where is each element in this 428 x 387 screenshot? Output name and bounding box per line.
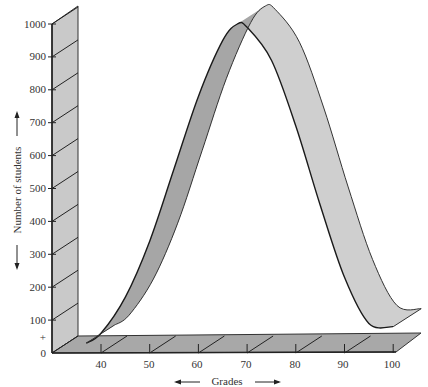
y-tick-300: 300 (30, 248, 47, 260)
x-tick-90: 90 (338, 358, 350, 370)
y-axis-title: Number of students (11, 147, 23, 234)
x-axis-title-group: Grades (174, 375, 281, 387)
x-tick-40: 40 (96, 358, 108, 370)
y-tick-500: 500 (30, 182, 47, 194)
y-tick-900: 900 (30, 50, 47, 62)
arrow-up-icon (15, 111, 20, 118)
y-tick-1000: 1000 (24, 18, 47, 30)
distribution-ribbon (86, 4, 421, 343)
y-tick-0: 0 (41, 347, 47, 359)
arrow-down-icon (15, 263, 20, 270)
y-tick-700: 700 (30, 116, 47, 128)
y-tick-labels: 0 + 100 200 300 400 500 600 700 800 900 … (24, 18, 47, 359)
x-axis-title: Grades (211, 375, 242, 387)
x-tick-100: 100 (384, 358, 401, 370)
y-tick-100: 100 (30, 314, 47, 326)
y-tick-800: 800 (30, 83, 47, 95)
grade-distribution-chart: 0 + 100 200 300 400 500 600 700 800 900 … (0, 0, 428, 387)
y-tick-600: 600 (30, 149, 47, 161)
x-tick-labels: 40 50 60 70 80 90 100 (96, 358, 401, 370)
y-tick-400: 400 (30, 215, 47, 227)
x-tick-70: 70 (241, 358, 253, 370)
x-tick-60: 60 (192, 358, 204, 370)
x-axis-floor (52, 333, 421, 353)
y-axis-title-group: Number of students (11, 111, 23, 270)
x-tick-80: 80 (290, 358, 302, 370)
arrow-left-icon (174, 380, 181, 385)
y-tick-plus: + (40, 331, 46, 343)
x-tick-50: 50 (144, 358, 156, 370)
arrow-right-icon (274, 380, 281, 385)
y-tick-200: 200 (30, 281, 47, 293)
